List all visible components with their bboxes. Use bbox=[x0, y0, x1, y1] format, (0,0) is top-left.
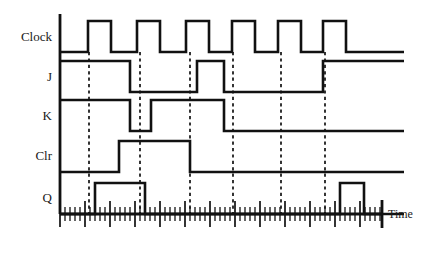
signal-waveforms bbox=[60, 21, 404, 214]
signal-label-j: J bbox=[47, 69, 52, 84]
signal-label-q: Q bbox=[43, 190, 53, 205]
waveform-q bbox=[60, 183, 404, 214]
waveform-k bbox=[60, 100, 404, 131]
time-axis bbox=[60, 14, 382, 228]
signal-label-clock: Clock bbox=[21, 29, 53, 44]
clock-edge-marker-lines bbox=[89, 52, 325, 214]
timing-diagram: ClockJKClrQ Time bbox=[0, 0, 436, 255]
time-axis-label: Time bbox=[388, 207, 413, 221]
signal-label-k: K bbox=[43, 108, 53, 123]
waveform-clock bbox=[60, 21, 404, 52]
signal-labels: ClockJKClrQ bbox=[21, 29, 53, 205]
waveform-j bbox=[60, 61, 404, 92]
waveform-clr bbox=[60, 141, 404, 172]
timing-diagram-canvas: ClockJKClrQ Time bbox=[0, 0, 436, 255]
signal-label-clr: Clr bbox=[35, 148, 52, 163]
